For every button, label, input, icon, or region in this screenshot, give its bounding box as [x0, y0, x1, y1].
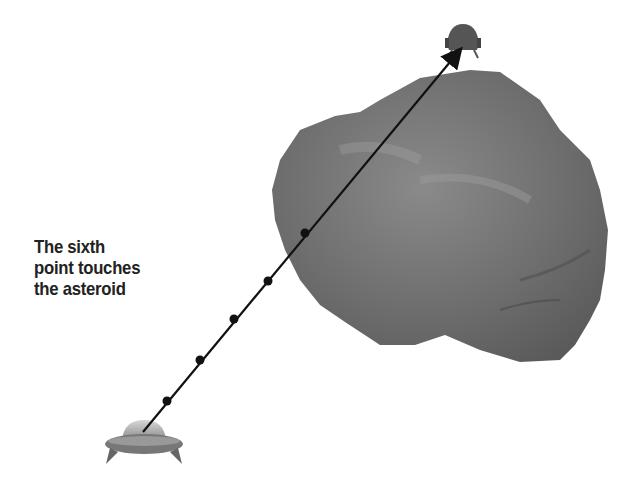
- sample-point-3: [230, 315, 239, 324]
- player-ship-icon: [105, 420, 183, 464]
- sample-points: [163, 229, 310, 406]
- caption: The sixth point touches the asteroid: [34, 236, 140, 299]
- sample-point-1: [163, 397, 172, 406]
- sample-point-2: [196, 356, 205, 365]
- caption-line-2: point touches: [34, 257, 140, 278]
- caption-line-1: The sixth: [34, 236, 140, 257]
- caption-line-3: the asteroid: [34, 278, 140, 299]
- sample-point-4: [264, 277, 273, 286]
- sample-point-5: [301, 229, 310, 238]
- enemy-ship-icon: [445, 24, 481, 58]
